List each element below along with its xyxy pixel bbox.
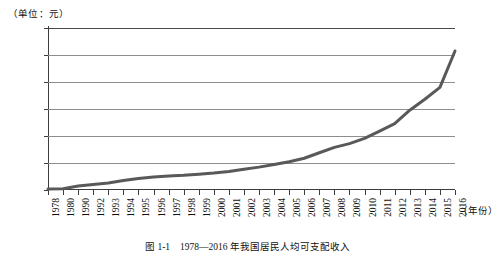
x-tick-mark — [244, 190, 245, 195]
x-tick-mark — [108, 190, 109, 195]
x-tick-mark — [93, 190, 94, 195]
x-tick-mark — [138, 190, 139, 195]
x-tick-label: 2005 — [293, 198, 303, 217]
x-tick-label: 2012 — [399, 198, 409, 217]
x-tick-label: 1994 — [127, 198, 137, 217]
x-tick-mark — [440, 190, 441, 195]
x-tick-label: 2011 — [384, 198, 394, 217]
x-tick-mark — [274, 190, 275, 195]
x-tick-mark — [259, 190, 260, 195]
x-tick-label: 1996 — [158, 198, 168, 217]
x-tick-mark — [48, 190, 49, 195]
x-tick-mark — [214, 190, 215, 195]
x-tick-label: 1990 — [82, 198, 92, 217]
x-tick-label: 2014 — [429, 198, 439, 217]
x-tick-mark — [63, 190, 64, 195]
x-tick-label: 2002 — [248, 198, 258, 217]
x-tick-mark — [334, 190, 335, 195]
x-tick-mark — [229, 190, 230, 195]
series-line-income — [48, 28, 455, 190]
x-axis-name-label: （年份） — [458, 203, 495, 217]
x-tick-label: 2004 — [278, 198, 288, 217]
x-tick-label: 2010 — [369, 198, 379, 217]
x-tick-label: 2001 — [233, 198, 243, 217]
series-polyline — [48, 51, 455, 189]
x-tick-label: 2003 — [263, 198, 273, 217]
x-tick-label: 1980 — [67, 198, 77, 217]
x-tick-label: 2006 — [308, 198, 318, 217]
x-tick-label: 2015 — [444, 198, 454, 217]
x-tick-label: 1993 — [112, 198, 122, 217]
x-tick-mark — [304, 190, 305, 195]
x-tick-mark — [78, 190, 79, 195]
plot-area: 0100002000030000400005000060000 19781980… — [48, 28, 455, 190]
x-tick-mark — [410, 190, 411, 195]
y-axis-unit-label: （单位：元） — [8, 6, 69, 20]
x-tick-label: 2009 — [353, 198, 363, 217]
x-tick-mark — [184, 190, 185, 195]
x-tick-label: 1999 — [203, 198, 213, 217]
x-tick-label: 1995 — [142, 198, 152, 217]
x-tick-label: 1978 — [52, 198, 62, 217]
x-tick-label: 1998 — [188, 198, 198, 217]
x-tick-mark — [365, 190, 366, 195]
x-tick-mark — [169, 190, 170, 195]
x-tick-label: 2000 — [218, 198, 228, 217]
x-tick-label: 2008 — [338, 198, 348, 217]
x-tick-label: 1992 — [97, 198, 107, 217]
x-tick-mark — [319, 190, 320, 195]
x-tick-label: 2007 — [323, 198, 333, 217]
x-tick-label: 2013 — [414, 198, 424, 217]
x-tick-mark — [123, 190, 124, 195]
x-tick-mark — [395, 190, 396, 195]
x-tick-label: 1997 — [173, 198, 183, 217]
x-tick-mark — [154, 190, 155, 195]
figure-caption: 图 1-1 1978—2016 年我国居民人均可支配收入 — [0, 239, 495, 253]
x-tick-mark — [380, 190, 381, 195]
x-tick-mark — [289, 190, 290, 195]
x-tick-mark — [199, 190, 200, 195]
x-tick-mark — [349, 190, 350, 195]
x-tick-mark — [455, 190, 456, 195]
x-tick-mark — [425, 190, 426, 195]
